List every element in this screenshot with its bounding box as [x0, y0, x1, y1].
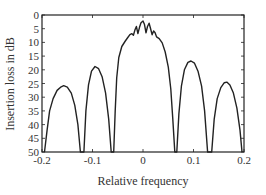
y-tick-label: 20 [28, 64, 40, 76]
y-tick-label: 0 [34, 9, 40, 21]
x-tick-label: -0.2 [33, 154, 50, 166]
y-tick-label: 15 [28, 50, 40, 62]
x-tick-label: 0 [140, 154, 146, 166]
y-tick-label: 30 [28, 91, 40, 103]
x-tick-label: 0.1 [187, 154, 201, 166]
y-tick-label: 5 [34, 23, 40, 35]
y-tick-label: 45 [28, 132, 40, 144]
y-tick-label: 10 [28, 36, 40, 48]
y-tick-label: 40 [28, 119, 40, 131]
x-tick-label: 0.2 [237, 154, 251, 166]
y-tick-labels: 05101520253035404550 [28, 9, 40, 158]
y-axis-label: Insertion loss in dB [3, 37, 17, 131]
insertion-loss-chart: 05101520253035404550 -0.2-0.100.10.2 Rel… [0, 0, 266, 195]
y-tick-label: 35 [28, 105, 40, 117]
y-tick-label: 25 [28, 78, 40, 90]
x-tick-label: -0.1 [84, 154, 101, 166]
insertion-loss-curve [45, 21, 243, 152]
x-tick-labels: -0.2-0.100.10.2 [33, 154, 251, 166]
x-axis-label: Relative frequency [98, 174, 189, 188]
